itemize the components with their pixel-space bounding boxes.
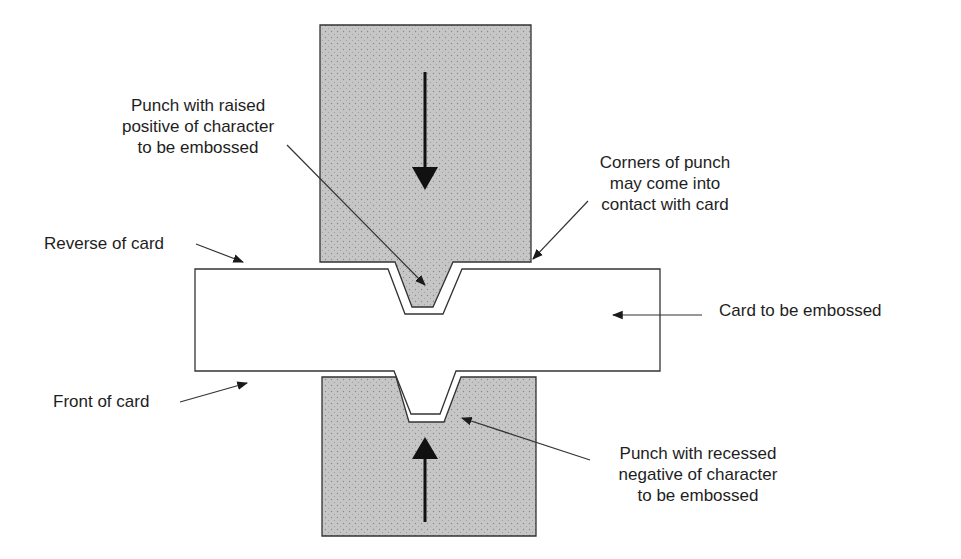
- label-line: may come into: [585, 173, 745, 194]
- label-line: Punch with recessed: [598, 443, 798, 464]
- label-top-punch: Punch with raised positive of character …: [110, 95, 286, 158]
- label-card-to-be-embossed: Card to be embossed: [719, 300, 882, 321]
- leader-corners: [533, 201, 588, 259]
- label-corners: Corners of punch may come into contact w…: [585, 152, 745, 215]
- leader-reverse: [196, 244, 243, 262]
- label-line: Corners of punch: [585, 152, 745, 173]
- label-bottom-punch: Punch with recessed negative of characte…: [598, 443, 798, 506]
- label-line: to be embossed: [598, 485, 798, 506]
- leader-front: [180, 383, 247, 402]
- embossing-diagram: [0, 0, 961, 559]
- label-line: Punch with raised: [110, 95, 286, 116]
- label-front-of-card: Front of card: [53, 391, 149, 412]
- label-reverse-of-card: Reverse of card: [44, 233, 164, 254]
- label-line: to be embossed: [110, 137, 286, 158]
- label-line: positive of character: [110, 116, 286, 137]
- label-line: negative of character: [598, 464, 798, 485]
- label-line: contact with card: [585, 194, 745, 215]
